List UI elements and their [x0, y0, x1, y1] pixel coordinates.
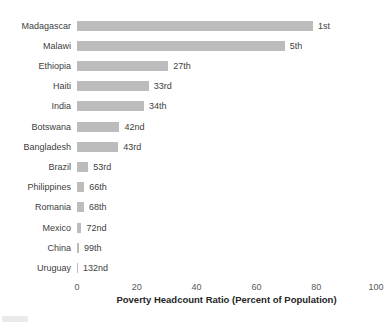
bar	[77, 81, 149, 91]
x-axis-tick-label: 100	[361, 282, 391, 292]
x-axis-tick-label: 40	[182, 282, 212, 292]
bar	[77, 202, 84, 212]
rank-label: 99th	[84, 243, 102, 253]
bar	[77, 142, 118, 152]
rank-label: 72nd	[86, 223, 106, 233]
rank-label: 43rd	[123, 142, 141, 152]
country-label: Madagascar	[21, 21, 71, 31]
rank-label: 132nd	[83, 263, 108, 273]
rank-label: 33rd	[154, 81, 172, 91]
x-axis-tick-label: 0	[62, 282, 92, 292]
country-label: Bangladesh	[23, 142, 71, 152]
bar	[77, 21, 313, 31]
country-label: Ethiopia	[38, 61, 71, 71]
country-label: Haiti	[53, 81, 71, 91]
bar	[77, 162, 88, 172]
country-label: Malawi	[43, 41, 71, 51]
rank-label: 1st	[318, 21, 330, 31]
rank-label: 27th	[173, 61, 191, 71]
country-label: Botswana	[31, 122, 71, 132]
country-label: India	[51, 101, 71, 111]
bar	[77, 243, 79, 253]
rank-label: 53rd	[93, 162, 111, 172]
bar	[77, 41, 285, 51]
x-axis-tick-label: 20	[122, 282, 152, 292]
country-label: Philippines	[27, 182, 71, 192]
x-axis-tick-label: 60	[241, 282, 271, 292]
rank-label: 5th	[290, 41, 303, 51]
country-label: China	[47, 243, 71, 253]
bar	[77, 101, 144, 111]
country-label: Romania	[35, 202, 71, 212]
rank-label: 66th	[89, 182, 107, 192]
bar	[77, 223, 81, 233]
rank-label: 34th	[149, 101, 167, 111]
poverty-bar-chart: Madagascar1stMalawi5thEthiopia27thHaiti3…	[0, 0, 391, 326]
watermark	[2, 316, 28, 322]
x-axis-tick-label: 80	[301, 282, 331, 292]
rank-label: 42nd	[124, 122, 144, 132]
bar	[77, 61, 168, 71]
rank-label: 68th	[89, 202, 107, 212]
bar	[77, 263, 78, 273]
bar	[77, 122, 119, 132]
x-axis-title: Poverty Headcount Ratio (Percent of Popu…	[77, 294, 376, 305]
country-label: Uruguay	[37, 263, 71, 273]
bar	[77, 182, 84, 192]
country-label: Brazil	[48, 162, 71, 172]
country-label: Mexico	[42, 223, 71, 233]
